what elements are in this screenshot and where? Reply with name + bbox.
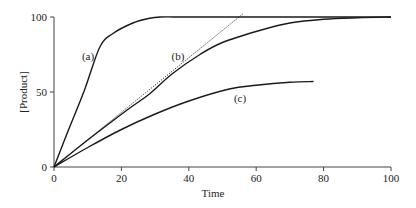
tangent-line-dotted bbox=[54, 14, 243, 167]
axes bbox=[50, 17, 391, 171]
curve-c bbox=[54, 82, 313, 168]
x-tick-label-20: 20 bbox=[116, 172, 128, 184]
curve-label-a: (a) bbox=[82, 50, 95, 63]
y-tick-label-50: 50 bbox=[36, 86, 48, 98]
x-tick-label-60: 60 bbox=[251, 172, 263, 184]
x-tick-label-100: 100 bbox=[383, 172, 400, 184]
x-tick-label-0: 0 bbox=[51, 172, 57, 184]
x-tick-label-80: 80 bbox=[318, 172, 330, 184]
x-tick-label-40: 40 bbox=[183, 172, 195, 184]
x-axis-title: Time bbox=[202, 187, 225, 199]
y-tick-label-100: 100 bbox=[31, 11, 48, 23]
plot-area bbox=[54, 14, 391, 167]
y-tick-label-0: 0 bbox=[42, 161, 48, 173]
x-tick-labels: 0 20 40 60 80 100 bbox=[51, 172, 400, 184]
product-vs-time-chart: 100 50 0 0 20 40 60 80 100 Time [Product… bbox=[0, 0, 416, 208]
curve-label-b: (b) bbox=[172, 50, 185, 63]
y-axis-title: [Product] bbox=[17, 71, 29, 113]
curve-label-c: (c) bbox=[234, 92, 247, 105]
y-tick-labels: 100 50 0 bbox=[31, 11, 48, 173]
curve-a bbox=[54, 17, 391, 167]
